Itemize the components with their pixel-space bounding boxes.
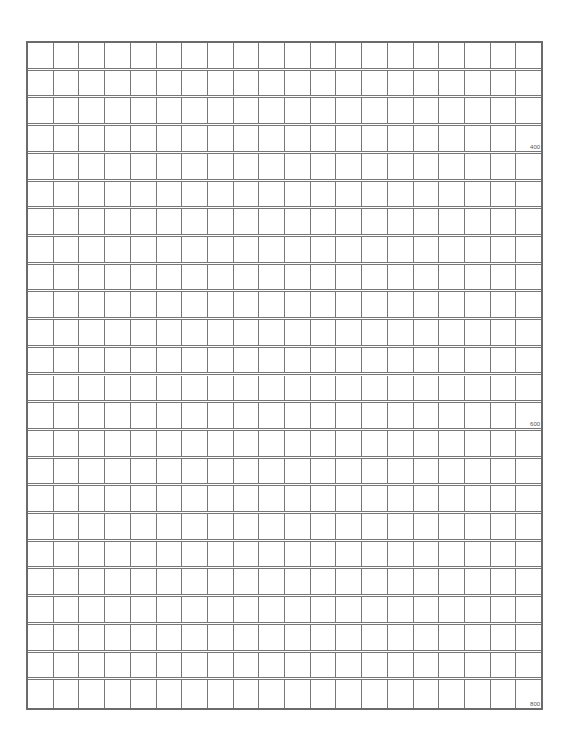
- grid-cell: [388, 265, 414, 290]
- grid-cell: [336, 320, 362, 345]
- grid-cell: [208, 237, 234, 262]
- grid-row: [28, 653, 541, 681]
- grid-cell: [79, 209, 105, 234]
- grid-cell: [491, 209, 517, 234]
- grid-cell: [516, 182, 541, 207]
- grid-cell: [259, 653, 285, 678]
- grid-cell: [105, 597, 131, 622]
- grid-cell: [131, 265, 157, 290]
- grid-cell: [311, 625, 337, 650]
- grid-cell: [516, 653, 541, 678]
- grid-cell: [439, 292, 465, 317]
- grid-cell: [491, 625, 517, 650]
- grid-cell: [285, 542, 311, 567]
- grid-cell: [285, 376, 311, 401]
- grid-cell: [336, 597, 362, 622]
- grid-cell: [465, 625, 491, 650]
- grid-cell: [414, 43, 440, 68]
- grid-cell: [414, 237, 440, 262]
- grid-cell: [28, 126, 54, 151]
- grid-cell: [311, 209, 337, 234]
- grid-cell: [388, 653, 414, 678]
- grid-cell: [208, 486, 234, 511]
- grid-cell: [79, 237, 105, 262]
- grid-cell: [157, 597, 183, 622]
- grid-cell: [54, 348, 80, 373]
- grid-cell: [54, 71, 80, 96]
- grid-cell: [439, 182, 465, 207]
- grid-cell: [54, 154, 80, 179]
- grid-cell: [234, 376, 260, 401]
- grid-cell: [439, 569, 465, 594]
- grid-cell: [362, 71, 388, 96]
- grid-cell: [79, 43, 105, 68]
- grid-cell: [311, 403, 337, 428]
- grid-row: [28, 98, 541, 126]
- grid-cell: [491, 542, 517, 567]
- grid-cell: [336, 348, 362, 373]
- grid-cell: [259, 459, 285, 484]
- character-count-label: 600: [530, 421, 540, 427]
- grid-cell: [336, 209, 362, 234]
- grid-cell: [285, 403, 311, 428]
- grid-cell: [182, 237, 208, 262]
- grid-cell: [105, 126, 131, 151]
- grid-cell: [131, 569, 157, 594]
- grid-cell: [439, 43, 465, 68]
- grid-cell: [465, 376, 491, 401]
- grid-cell: [465, 459, 491, 484]
- grid-cell: [131, 459, 157, 484]
- grid-cell: [157, 43, 183, 68]
- grid-cell: [465, 182, 491, 207]
- grid-cell: [388, 237, 414, 262]
- grid-cell: [28, 431, 54, 456]
- grid-cell: [465, 209, 491, 234]
- grid-cell: [465, 348, 491, 373]
- grid-cell: [414, 182, 440, 207]
- grid-cell: [439, 653, 465, 678]
- grid-cell: [234, 403, 260, 428]
- grid-cell: [105, 680, 131, 708]
- grid-row: [28, 431, 541, 459]
- grid-row: [28, 376, 541, 404]
- grid-cell: [388, 71, 414, 96]
- grid-cell: [285, 431, 311, 456]
- grid-cell: [157, 348, 183, 373]
- grid-cell: [131, 154, 157, 179]
- grid-cell: [157, 154, 183, 179]
- grid-cell: [54, 98, 80, 123]
- grid-cell: [54, 376, 80, 401]
- grid-cell: [131, 320, 157, 345]
- grid-cell: [259, 376, 285, 401]
- grid-cell: [182, 403, 208, 428]
- grid-cell: [182, 98, 208, 123]
- grid-cell: [491, 98, 517, 123]
- grid-cell: [465, 154, 491, 179]
- grid-cell: [414, 126, 440, 151]
- grid-cell: [105, 320, 131, 345]
- grid-cell: [28, 542, 54, 567]
- grid-cell: [362, 98, 388, 123]
- grid-cell: [311, 71, 337, 96]
- grid-cell: [285, 98, 311, 123]
- grid-cell: [28, 514, 54, 539]
- grid-cell: [105, 265, 131, 290]
- grid-cell: [54, 431, 80, 456]
- grid-cell: [208, 209, 234, 234]
- grid-cell: [182, 653, 208, 678]
- grid-cell: [336, 542, 362, 567]
- grid-cell: [259, 486, 285, 511]
- grid-cell: [388, 292, 414, 317]
- grid-cell: [362, 126, 388, 151]
- grid-cell: [54, 542, 80, 567]
- grid-cell: [234, 486, 260, 511]
- grid-cell: [465, 653, 491, 678]
- grid-cell: [28, 237, 54, 262]
- grid-cell: [388, 680, 414, 708]
- grid-cell: [439, 348, 465, 373]
- grid-cell: [182, 597, 208, 622]
- grid-cell: [54, 625, 80, 650]
- grid-cell: [285, 320, 311, 345]
- grid-cell: 800: [516, 680, 541, 708]
- grid-cell: [131, 625, 157, 650]
